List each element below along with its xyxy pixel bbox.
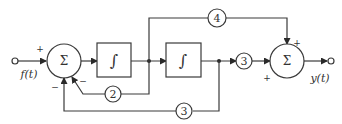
gain-3-forward-block: 3	[236, 53, 252, 69]
gain4-path-out	[226, 18, 287, 44]
sum2-plus-sign-top: +	[293, 38, 301, 48]
output-terminal	[328, 58, 334, 64]
gain3-forward-value: 3	[241, 55, 248, 68]
gain-2-block: 2	[105, 86, 121, 102]
gain-4-block: 4	[208, 9, 226, 27]
output-label: y(t)	[309, 72, 329, 85]
summing-junction-1: Σ	[47, 44, 81, 78]
integral-icon: ∫	[110, 51, 118, 70]
sum1-symbol: Σ	[60, 54, 68, 68]
sum2-symbol: Σ	[283, 54, 291, 68]
sum1-minus-sign-gain3: −	[51, 82, 59, 92]
input-terminal	[12, 58, 18, 64]
integrator-1: ∫	[97, 43, 131, 77]
input-label: f(t)	[19, 68, 37, 81]
gain3-feedback-value: 3	[181, 105, 188, 118]
block-diagram: Σ + − − ∫ 4 2 ∫ 3 3	[0, 0, 342, 124]
gain2-path-out	[72, 77, 105, 94]
sum1-minus-sign-gain2: −	[79, 76, 87, 86]
sum2-plus-sign-left: +	[263, 73, 271, 83]
gain-3-feedback-block: 3	[176, 103, 192, 119]
gain2-value: 2	[110, 88, 117, 101]
integrator-2: ∫	[166, 43, 201, 77]
gain4-value: 4	[214, 12, 221, 25]
summing-junction-2: Σ	[270, 44, 304, 78]
integral-icon: ∫	[179, 51, 187, 70]
sum1-plus-sign: +	[36, 44, 44, 54]
